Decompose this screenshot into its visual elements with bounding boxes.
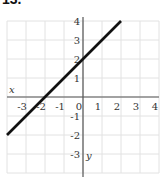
x-axis-label: x <box>9 84 15 95</box>
svg-text:1: 1 <box>74 73 80 84</box>
svg-text:3: 3 <box>133 101 139 112</box>
svg-text:-3: -3 <box>70 149 80 160</box>
coordinate-plane: -3-2-1012344321-1-2-3 x y <box>0 0 164 187</box>
svg-text:4: 4 <box>74 16 80 27</box>
tick-labels: -3-2-1012344321-1-2-3 <box>17 16 158 160</box>
y-axis-label: y <box>85 150 92 161</box>
svg-text:4: 4 <box>152 101 158 112</box>
svg-text:3: 3 <box>74 35 80 46</box>
svg-text:-3: -3 <box>17 101 27 112</box>
axes <box>7 17 159 177</box>
svg-text:-2: -2 <box>70 130 80 141</box>
svg-text:-1: -1 <box>55 101 65 112</box>
svg-text:2: 2 <box>114 101 120 112</box>
svg-text:-1: -1 <box>70 111 80 122</box>
svg-text:1: 1 <box>95 101 101 112</box>
